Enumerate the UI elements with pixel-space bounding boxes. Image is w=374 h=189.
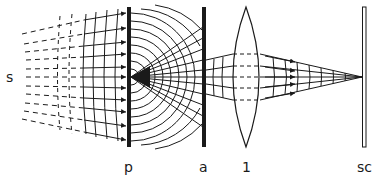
- screen-sc: [363, 7, 367, 147]
- optics-diagram: s p a 1 sc: [0, 0, 374, 189]
- aperture-to-lens-rays: [206, 54, 233, 100]
- aperture-a: [202, 7, 206, 147]
- label-screen: sc: [357, 159, 372, 175]
- label-aperture: a: [199, 159, 208, 175]
- label-source: s: [6, 69, 13, 85]
- converging-rays: [260, 54, 362, 100]
- diverging-rays: [131, 27, 203, 127]
- incoming-dashed-rays: [22, 14, 84, 134]
- label-lens: 1: [242, 159, 251, 175]
- plate-p: [127, 7, 131, 147]
- incoming-solid-rays: [83, 9, 126, 141]
- label-plate: p: [124, 159, 133, 175]
